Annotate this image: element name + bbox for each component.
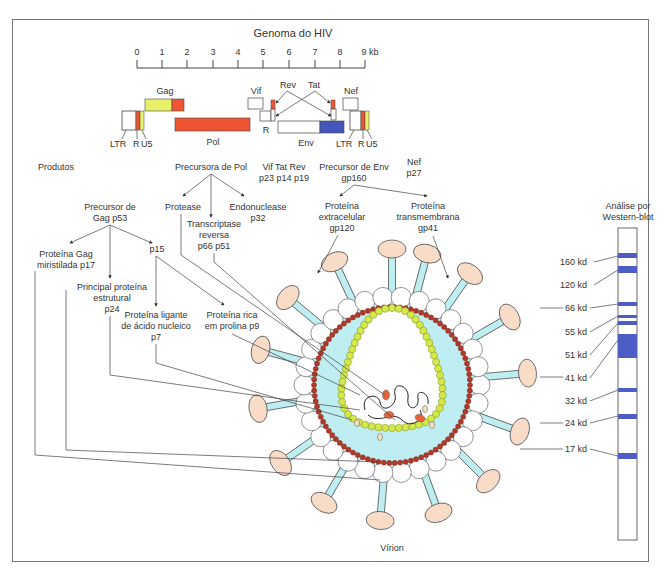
band-17 <box>618 453 637 459</box>
p24-line2: estrutural <box>93 293 131 303</box>
gp41-line2: transmembrana <box>396 212 459 222</box>
gag-precursor: Precursor de <box>84 202 136 212</box>
rt-line2: reversa <box>199 230 229 240</box>
gag-gene: Gag <box>145 86 184 111</box>
p24: Principal proteína <box>77 282 147 292</box>
gag-precursor-size: Gag p53 <box>93 213 128 223</box>
p7-line2: de ácido nucleico <box>121 321 191 331</box>
vif-gene: Vif R <box>248 86 275 135</box>
tat-label: Tat <box>308 80 321 90</box>
wb-title-line1: Análise por <box>605 201 650 211</box>
tick-3: 3 <box>210 47 215 57</box>
wb-label-120: 120 kd <box>560 280 587 290</box>
p7: Proteína ligante <box>124 310 187 320</box>
band-41 <box>618 334 637 358</box>
band-160 <box>618 253 637 258</box>
virion: Vírion <box>247 240 538 553</box>
p15: p15 <box>149 244 164 254</box>
endonuclease-size: p32 <box>250 213 265 223</box>
vif-label: Vif <box>251 86 262 96</box>
r-gene-label: R <box>263 125 270 135</box>
p24-line3: p24 <box>104 304 119 314</box>
band-120 <box>618 266 637 273</box>
virion-label: Vírion <box>380 543 404 553</box>
p9: Proteína rica <box>206 310 257 320</box>
nef-gene: Nef <box>343 86 358 110</box>
endonuclease: Endonuclease <box>229 202 286 212</box>
band-66 <box>618 302 637 306</box>
tick-4: 4 <box>235 47 240 57</box>
band-32 <box>618 388 637 392</box>
vif-tat-rev-names: Vif Tat Rev <box>262 162 306 172</box>
kb-scale: 0 1 2 3 4 5 6 7 8 9 kb <box>134 47 378 68</box>
band-24 <box>618 414 637 419</box>
wb-label-41: 41 kd <box>565 373 587 383</box>
reverse-transcriptase: Transcriptase <box>187 219 241 229</box>
tick-2: 2 <box>184 47 189 57</box>
protease: Protease <box>165 202 201 212</box>
genome-title: Genoma do HIV <box>254 27 334 39</box>
hiv-diagram: Genoma do HIV 0 1 2 3 4 5 6 7 8 9 kb <box>0 0 666 571</box>
western-blot: Análise por Western-blot 160 kd 120 kd 6… <box>520 201 654 540</box>
ltr-right-label: LTR <box>336 139 353 149</box>
tick-1: 1 <box>159 47 164 57</box>
gag-label: Gag <box>156 86 173 96</box>
gp120-line2: extracelular <box>319 212 366 222</box>
nef-product-size: p27 <box>406 168 421 178</box>
nef-label: Nef <box>344 86 359 96</box>
wb-label-66: 66 kd <box>565 303 587 313</box>
env-precursor: Precursor de Env <box>319 162 389 172</box>
rev-label: Rev <box>280 80 297 90</box>
wb-label-55: 55 kd <box>565 327 587 337</box>
tick-0: 0 <box>134 47 139 57</box>
wb-label-51: 51 kd <box>565 350 587 360</box>
wb-label-32: 32 kd <box>565 396 587 406</box>
u5-right-label: U5 <box>366 139 378 149</box>
wb-title-line2: Western-blot <box>603 212 654 222</box>
band-55 <box>618 315 637 318</box>
p17-line2: miristilada p17 <box>37 260 95 270</box>
u5-left-label: U5 <box>141 139 153 149</box>
products-header: Produtos <box>38 162 75 172</box>
pol-label: Pol <box>206 137 219 147</box>
pol-gene: Pol <box>175 118 250 147</box>
nef-product: Nef <box>407 157 422 167</box>
r-right-label: R <box>358 139 365 149</box>
band-51 <box>618 321 637 325</box>
ltr-left: LTR R U5 <box>110 111 153 149</box>
gp120-line3: gp120 <box>329 223 354 233</box>
rev-tat-arrows: Rev Tat <box>276 80 336 120</box>
p17: Proteína Gag <box>39 249 93 259</box>
env-precursor-size: gp160 <box>341 173 366 183</box>
env-label: Env <box>298 138 314 148</box>
gp41-line3: gp41 <box>418 223 438 233</box>
gp41: Proteína <box>411 201 445 211</box>
rt-sizes: p66 p51 <box>198 241 231 251</box>
tick-9: 9 kb <box>361 47 378 57</box>
tick-6: 6 <box>286 47 291 57</box>
tick-5: 5 <box>260 47 265 57</box>
tick-7: 7 <box>312 47 317 57</box>
wb-label-24: 24 kd <box>565 418 587 428</box>
p9-line2: em prolina p9 <box>205 321 260 331</box>
tick-8: 8 <box>337 47 342 57</box>
genome-section: Genoma do HIV 0 1 2 3 4 5 6 7 8 9 kb <box>110 27 379 149</box>
env-gene: Env <box>278 121 344 148</box>
r-left-label: R <box>133 139 140 149</box>
vif-tat-rev-sizes: p23 p14 p19 <box>259 173 309 183</box>
gp120: Proteína <box>325 201 359 211</box>
pol-precursor: Precursora de Pol <box>175 162 247 172</box>
wb-label-17: 17 kd <box>565 444 587 454</box>
ltr-left-label: LTR <box>110 139 127 149</box>
p7-line3: p7 <box>151 332 161 342</box>
wb-strip <box>618 228 637 540</box>
wb-label-160: 160 kd <box>560 257 587 267</box>
